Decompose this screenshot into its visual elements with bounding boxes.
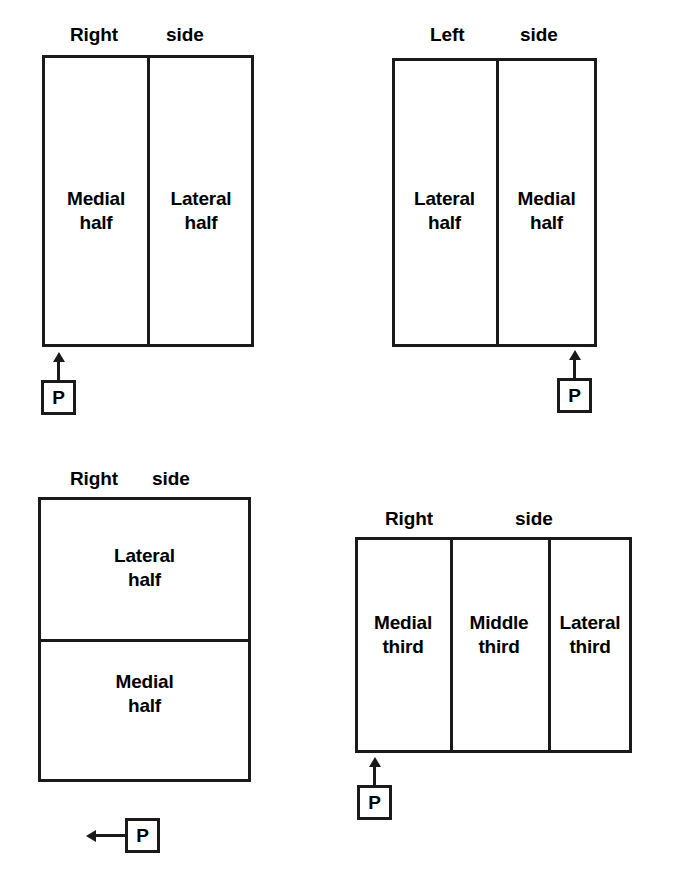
diagram-bottom-right-marker-arrow-up-icon [373, 766, 376, 786]
cell-label-line1: Lateral [414, 188, 475, 209]
diagram-top-right-heading-primary: Left [430, 24, 464, 46]
diagram-bottom-right-cell-lateral-third: Lateralthird [548, 611, 632, 660]
cell-label-line1: Middle [470, 612, 529, 633]
diagram-bottom-right-cell-middle-third: Middlethird [450, 611, 548, 660]
cell-label-line1: Medial [116, 671, 174, 692]
diagram-top-left-cell-medial-half: Medialhalf [44, 187, 148, 236]
diagram-bottom-left-marker-p-box: P [125, 818, 160, 853]
cell-label-line2: third [569, 636, 610, 657]
diagram-top-right-marker-p-box: P [557, 378, 592, 413]
cell-label-line1: Medial [67, 188, 125, 209]
diagram-bottom-right-heading-secondary: side [515, 508, 553, 530]
diagram-top-left-heading-secondary: side [166, 24, 204, 46]
diagram-bottom-left-cell-medial-half: Medialhalf [40, 670, 249, 719]
cell-label-line1: Lateral [114, 545, 175, 566]
cell-label-line2: half [530, 212, 563, 233]
diagram-bottom-right-cell-medial-third: Medialthird [357, 611, 449, 660]
diagram-bottom-right-marker-p-box: P [357, 785, 392, 820]
diagram-top-left-heading-primary: Right [70, 24, 118, 46]
diagram-top-right-heading-secondary: side [520, 24, 558, 46]
cell-label-line2: half [185, 212, 218, 233]
cell-label-line2: half [428, 212, 461, 233]
diagram-top-right: Left side Lateralhalf Medialhalf P [340, 0, 673, 430]
diagram-bottom-left: Right side Lateralhalf Medialhalf P [0, 440, 300, 886]
marker-letter: P [52, 388, 65, 407]
diagram-bottom-left-marker-arrow-left-icon [95, 834, 126, 837]
diagram-bottom-left-box [38, 497, 251, 782]
cell-label-line2: half [128, 569, 161, 590]
diagram-bottom-left-heading-secondary: side [152, 468, 190, 490]
diagram-top-right-cell-medial-half: Medialhalf [496, 187, 597, 236]
diagram-bottom-left-cell-lateral-half: Lateralhalf [40, 544, 249, 593]
diagram-top-left-marker-p-box: P [41, 380, 76, 415]
cell-label-line1: Medial [518, 188, 576, 209]
diagram-top-left-cell-lateral-half: Lateralhalf [149, 187, 253, 236]
diagram-bottom-right-heading-primary: Right [385, 508, 433, 530]
cell-label-line2: half [80, 212, 113, 233]
figure-root: Right side Medialhalf Lateralhalf P Left… [0, 0, 673, 886]
diagram-bottom-right: Right side Medialthird Middlethird Later… [330, 440, 673, 886]
diagram-top-right-marker-arrow-up-icon [573, 359, 576, 379]
cell-label-line2: half [128, 695, 161, 716]
diagram-bottom-left-heading-primary: Right [70, 468, 118, 490]
cell-label-line2: third [382, 636, 423, 657]
diagram-top-left: Right side Medialhalf Lateralhalf P [0, 0, 300, 430]
cell-label-line1: Lateral [560, 612, 621, 633]
marker-letter: P [136, 826, 149, 845]
cell-label-line1: Lateral [171, 188, 232, 209]
cell-label-line2: third [478, 636, 519, 657]
diagram-top-right-cell-lateral-half: Lateralhalf [394, 187, 495, 236]
marker-letter: P [568, 386, 581, 405]
cell-label-line1: Medial [374, 612, 432, 633]
diagram-top-left-marker-arrow-up-icon [57, 361, 60, 381]
diagram-bottom-left-divider [38, 639, 251, 642]
marker-letter: P [368, 793, 381, 812]
